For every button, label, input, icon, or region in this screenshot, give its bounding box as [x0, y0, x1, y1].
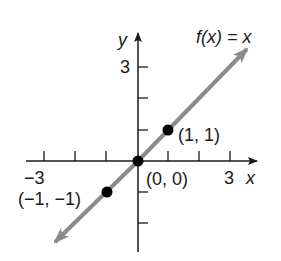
- y-axis-label: y: [116, 30, 128, 50]
- point-label-origin: (0, 0): [146, 169, 188, 189]
- point-label-neg: (−1, −1): [18, 189, 81, 209]
- x-axis-label: x: [245, 168, 256, 188]
- point-1-1: [163, 125, 174, 136]
- point-label-pos: (1, 1): [178, 125, 220, 145]
- function-label: f(x) = x: [196, 27, 253, 47]
- graph-canvas: f(x) = x y 3 −3 3 x (0, 0) (1, 1) (−1, −…: [0, 0, 281, 261]
- y-ticks: [138, 67, 148, 223]
- graph-figure: f(x) = x y 3 −3 3 x (0, 0) (1, 1) (−1, −…: [0, 0, 281, 261]
- x-tick-label-3: 3: [224, 168, 234, 188]
- x-tick-label-neg3: −3: [24, 168, 45, 188]
- y-tick-label-3: 3: [120, 57, 130, 77]
- point-origin: [133, 156, 144, 167]
- point-neg1-neg1: [102, 187, 113, 198]
